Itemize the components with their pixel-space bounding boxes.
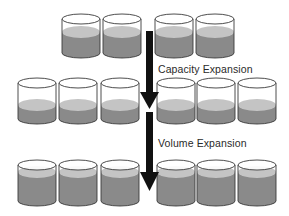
storage-cylinder xyxy=(155,14,193,58)
storage-cylinder xyxy=(101,160,139,206)
storage-cylinder xyxy=(59,160,97,206)
storage-cylinder xyxy=(18,78,56,124)
storage-cylinder xyxy=(101,78,139,124)
storage-cylinder xyxy=(62,14,100,58)
storage-expansion-diagram xyxy=(0,0,289,216)
storage-cylinder xyxy=(197,160,235,206)
storage-cylinder xyxy=(197,78,235,124)
storage-cylinder xyxy=(157,78,195,124)
storage-cylinder xyxy=(59,78,97,124)
storage-cylinder xyxy=(238,160,276,206)
storage-cylinder xyxy=(18,160,56,206)
storage-cylinder xyxy=(238,78,276,124)
arrow-volume-expansion xyxy=(140,112,159,191)
storage-cylinder xyxy=(157,160,195,206)
storage-cylinder xyxy=(103,14,141,58)
storage-cylinder xyxy=(196,14,234,58)
capacity-expansion-label: Capacity Expansion xyxy=(158,63,253,75)
volume-expansion-label: Volume Expansion xyxy=(158,137,247,149)
